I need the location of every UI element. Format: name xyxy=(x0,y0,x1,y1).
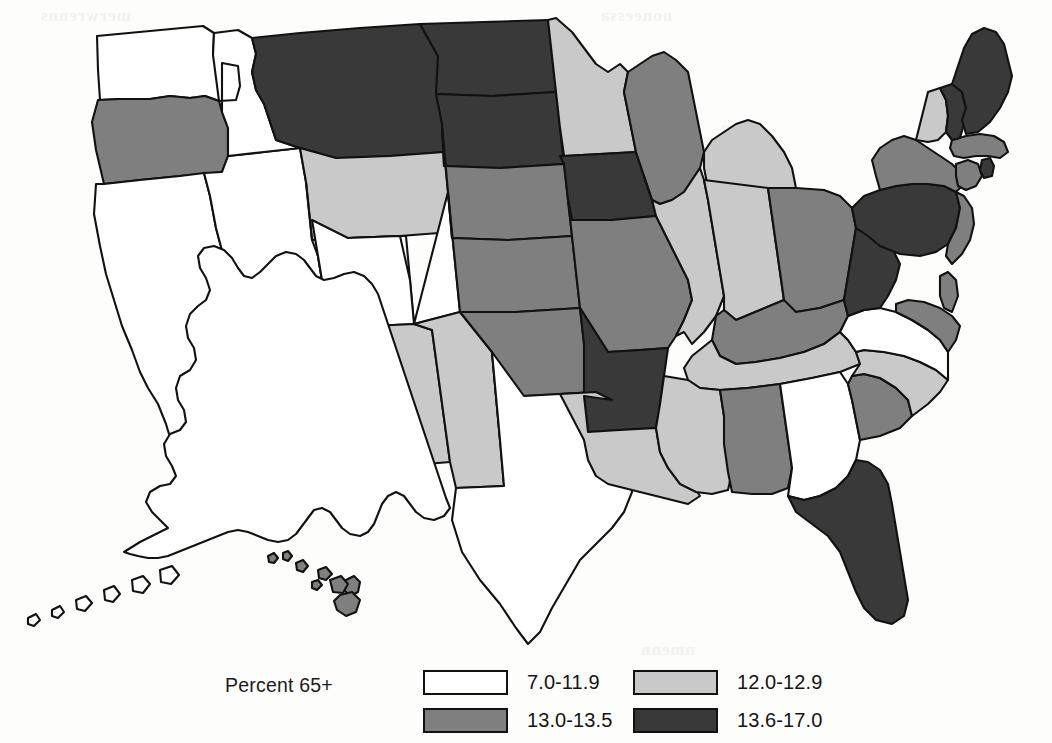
state-alaska-islet-3 xyxy=(76,596,92,611)
state-alaska-islet-5 xyxy=(132,576,150,593)
map-legend: Percent 65+ 7.0-11.9 12.0-12.9 13.0-13.5… xyxy=(225,668,925,740)
legend-label-lowest: 7.0-11.9 xyxy=(527,671,600,694)
legend-swatch-highest xyxy=(633,708,718,733)
legend-item-low: 12.0-12.9 xyxy=(633,670,822,695)
state-hawaii-islet-4 xyxy=(318,567,332,580)
legend-item-high: 13.0-13.5 xyxy=(423,708,612,733)
state-montana xyxy=(252,24,444,158)
state-connecticut xyxy=(956,160,982,190)
figure-choropleth-map: merwrenns noneessa omen anoun eleron nme… xyxy=(0,0,1052,743)
legend-swatch-lowest xyxy=(423,670,508,695)
state-hawaii-islet-5 xyxy=(312,580,322,590)
legend-item-lowest: 7.0-11.9 xyxy=(423,670,600,695)
state-north-dakota xyxy=(420,20,556,96)
us-states-map xyxy=(0,0,1052,660)
state-south-dakota xyxy=(436,92,564,168)
state-alaska-islet-2 xyxy=(52,606,64,618)
state-alaska-islet-1 xyxy=(28,614,40,626)
state-alabama xyxy=(720,384,792,494)
state-rhode-island xyxy=(980,158,994,178)
state-hawaii-islet-7 xyxy=(334,592,360,616)
legend-label-high: 13.0-13.5 xyxy=(527,709,612,732)
legend-label-highest: 13.6-17.0 xyxy=(737,709,822,732)
state-hawaii-islet-3 xyxy=(296,560,308,572)
state-oregon xyxy=(92,96,228,184)
state-hawaii-islet-2 xyxy=(283,551,292,561)
legend-item-highest: 13.6-17.0 xyxy=(633,708,822,733)
legend-swatch-low xyxy=(633,670,718,695)
state-hawaii-islet-6 xyxy=(330,576,348,593)
legend-swatch-high xyxy=(423,708,508,733)
state-alaska-islet-4 xyxy=(104,586,120,602)
legend-title: Percent 65+ xyxy=(225,674,333,697)
state-alaska-islet-6 xyxy=(160,566,179,584)
state-delaware xyxy=(940,272,958,312)
state-hawaii-islet-1 xyxy=(268,553,278,563)
legend-label-low: 12.0-12.9 xyxy=(737,671,822,694)
state-minnesota xyxy=(548,18,636,156)
